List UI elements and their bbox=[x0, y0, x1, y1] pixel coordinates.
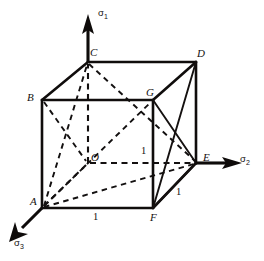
sigma-3-axis-line bbox=[22, 208, 42, 228]
vertex-label-C: C bbox=[90, 47, 97, 58]
sigma-2-axis-label: σ2 bbox=[240, 154, 250, 166]
sigma-1-axis-label: σ1 bbox=[98, 8, 108, 20]
vertex-label-D: D bbox=[197, 48, 205, 59]
vertex-markers-group bbox=[194, 161, 197, 164]
vertex-label-A: A bbox=[30, 196, 37, 207]
vertex-dot-E bbox=[194, 161, 197, 164]
dimension-label-af: 1 bbox=[93, 212, 98, 223]
vertex-label-B: B bbox=[27, 92, 34, 103]
hidden-edge-B-O bbox=[44, 102, 86, 161]
vertex-label-E: E bbox=[203, 152, 210, 163]
vertex-label-O: O bbox=[91, 152, 99, 163]
edge-G-E bbox=[153, 100, 196, 163]
hidden-edges-group bbox=[44, 64, 195, 207]
vertex-label-G: G bbox=[146, 87, 154, 98]
stress-cube-figure: σ1 σ2 σ3 A B C D E F G O 1 1 1 bbox=[0, 0, 264, 261]
edge-B-C bbox=[42, 62, 88, 100]
sigma-3-axis-label: σ3 bbox=[14, 238, 24, 250]
dimension-label-gf: 1 bbox=[141, 146, 146, 157]
dimension-label-fe: 1 bbox=[176, 187, 181, 198]
vertex-label-F: F bbox=[150, 212, 157, 223]
figure-canvas bbox=[0, 0, 264, 261]
hidden-edge-A-E bbox=[44, 164, 194, 207]
